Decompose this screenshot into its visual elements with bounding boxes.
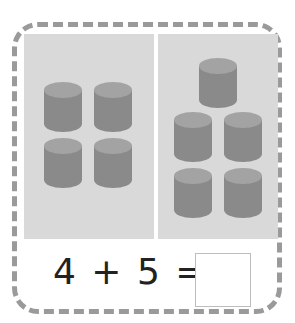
cylinder-icon xyxy=(174,168,212,218)
cylinder-icon xyxy=(174,112,212,162)
worksheet-card: 4 + 5 = xyxy=(12,22,282,314)
picture-panels xyxy=(24,34,280,239)
equation-text: 4 + 5 = xyxy=(53,251,207,292)
cylinder-icon xyxy=(94,138,132,188)
cylinder-icon xyxy=(44,82,82,132)
cylinder-icon xyxy=(44,138,82,188)
answer-box[interactable] xyxy=(195,253,251,307)
cylinder-icon xyxy=(224,168,262,218)
right-group-panel xyxy=(158,34,278,239)
equation-row: 4 + 5 = xyxy=(17,239,277,309)
cylinder-icon xyxy=(224,112,262,162)
left-group-panel xyxy=(24,34,154,239)
cylinder-icon xyxy=(199,58,237,108)
cylinder-icon xyxy=(94,82,132,132)
